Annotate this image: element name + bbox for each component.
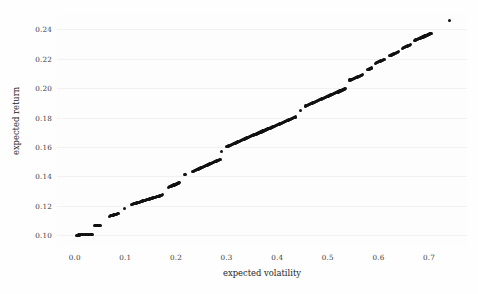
scatter-point <box>397 50 400 53</box>
scatter-point <box>177 181 180 184</box>
scatter-point <box>448 19 451 22</box>
y-axis-tick-label: 0.24 <box>35 25 52 34</box>
scatter-point <box>429 32 432 35</box>
y-axis-label: expected return <box>11 61 21 181</box>
y-axis-tick-label: 0.16 <box>35 142 52 151</box>
scatter-point <box>370 66 373 69</box>
scatter-point <box>409 43 412 46</box>
scatter-point <box>220 150 223 153</box>
scatter-point <box>299 109 302 112</box>
plot-area <box>57 14 467 246</box>
y-axis-tick-label: 0.20 <box>35 84 52 93</box>
scatter-point <box>98 224 101 227</box>
scatter-point <box>343 87 346 90</box>
y-axis-tick-label: 0.18 <box>35 113 52 122</box>
x-axis-tick-label: 0.2 <box>170 253 182 262</box>
scatter-point <box>117 212 120 215</box>
x-axis-tick-label: 0.4 <box>271 253 283 262</box>
x-axis-tick-label: 0.1 <box>119 253 131 262</box>
chart-page: 0.100.120.140.160.180.200.220.24 0.00.10… <box>0 0 478 294</box>
x-axis-tick-label: 0.5 <box>322 253 334 262</box>
y-axis-tick-label: 0.12 <box>35 201 52 210</box>
x-axis-label: expected volatility <box>57 268 467 278</box>
scatter-point <box>90 233 93 236</box>
x-axis-tick-label: 0.7 <box>423 253 435 262</box>
scatter-point <box>219 158 222 161</box>
scatter-point <box>183 173 186 176</box>
scatter-point <box>361 73 364 76</box>
y-axis-tick-label: 0.14 <box>35 172 52 181</box>
x-axis-tick-label: 0.6 <box>372 253 384 262</box>
y-axis-tick-label: 0.22 <box>35 54 52 63</box>
x-axis-tick-labels: 0.00.10.20.30.40.50.60.7 <box>57 253 467 265</box>
scatter-point <box>123 207 126 210</box>
scatter-point <box>294 115 297 118</box>
x-axis-tick-label: 0.3 <box>221 253 233 262</box>
y-axis-tick-labels: 0.100.120.140.160.180.200.220.24 <box>0 14 52 246</box>
x-axis-tick-label: 0.0 <box>69 253 81 262</box>
scatter-points <box>57 14 467 246</box>
y-axis-tick-label: 0.10 <box>35 230 52 239</box>
scatter-point <box>383 58 386 61</box>
